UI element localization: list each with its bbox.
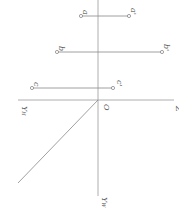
label-a: a <box>81 10 90 15</box>
diagonal-line <box>18 100 98 183</box>
point-c <box>30 86 33 89</box>
projection-diagram: a a' b b' c c' O Z YH YW <box>0 0 179 211</box>
label-yh: YH <box>20 106 29 116</box>
label-b: b <box>57 46 66 51</box>
label-origin: O <box>102 104 111 111</box>
label-yw: YW <box>100 197 109 208</box>
label-a-prime: a' <box>129 8 138 15</box>
label-c: c <box>32 82 41 87</box>
label-z: Z <box>174 105 179 112</box>
point-c-prime <box>111 86 114 89</box>
point-a <box>79 14 82 17</box>
label-c-prime: c' <box>115 80 124 87</box>
label-b-prime: b' <box>162 44 171 51</box>
